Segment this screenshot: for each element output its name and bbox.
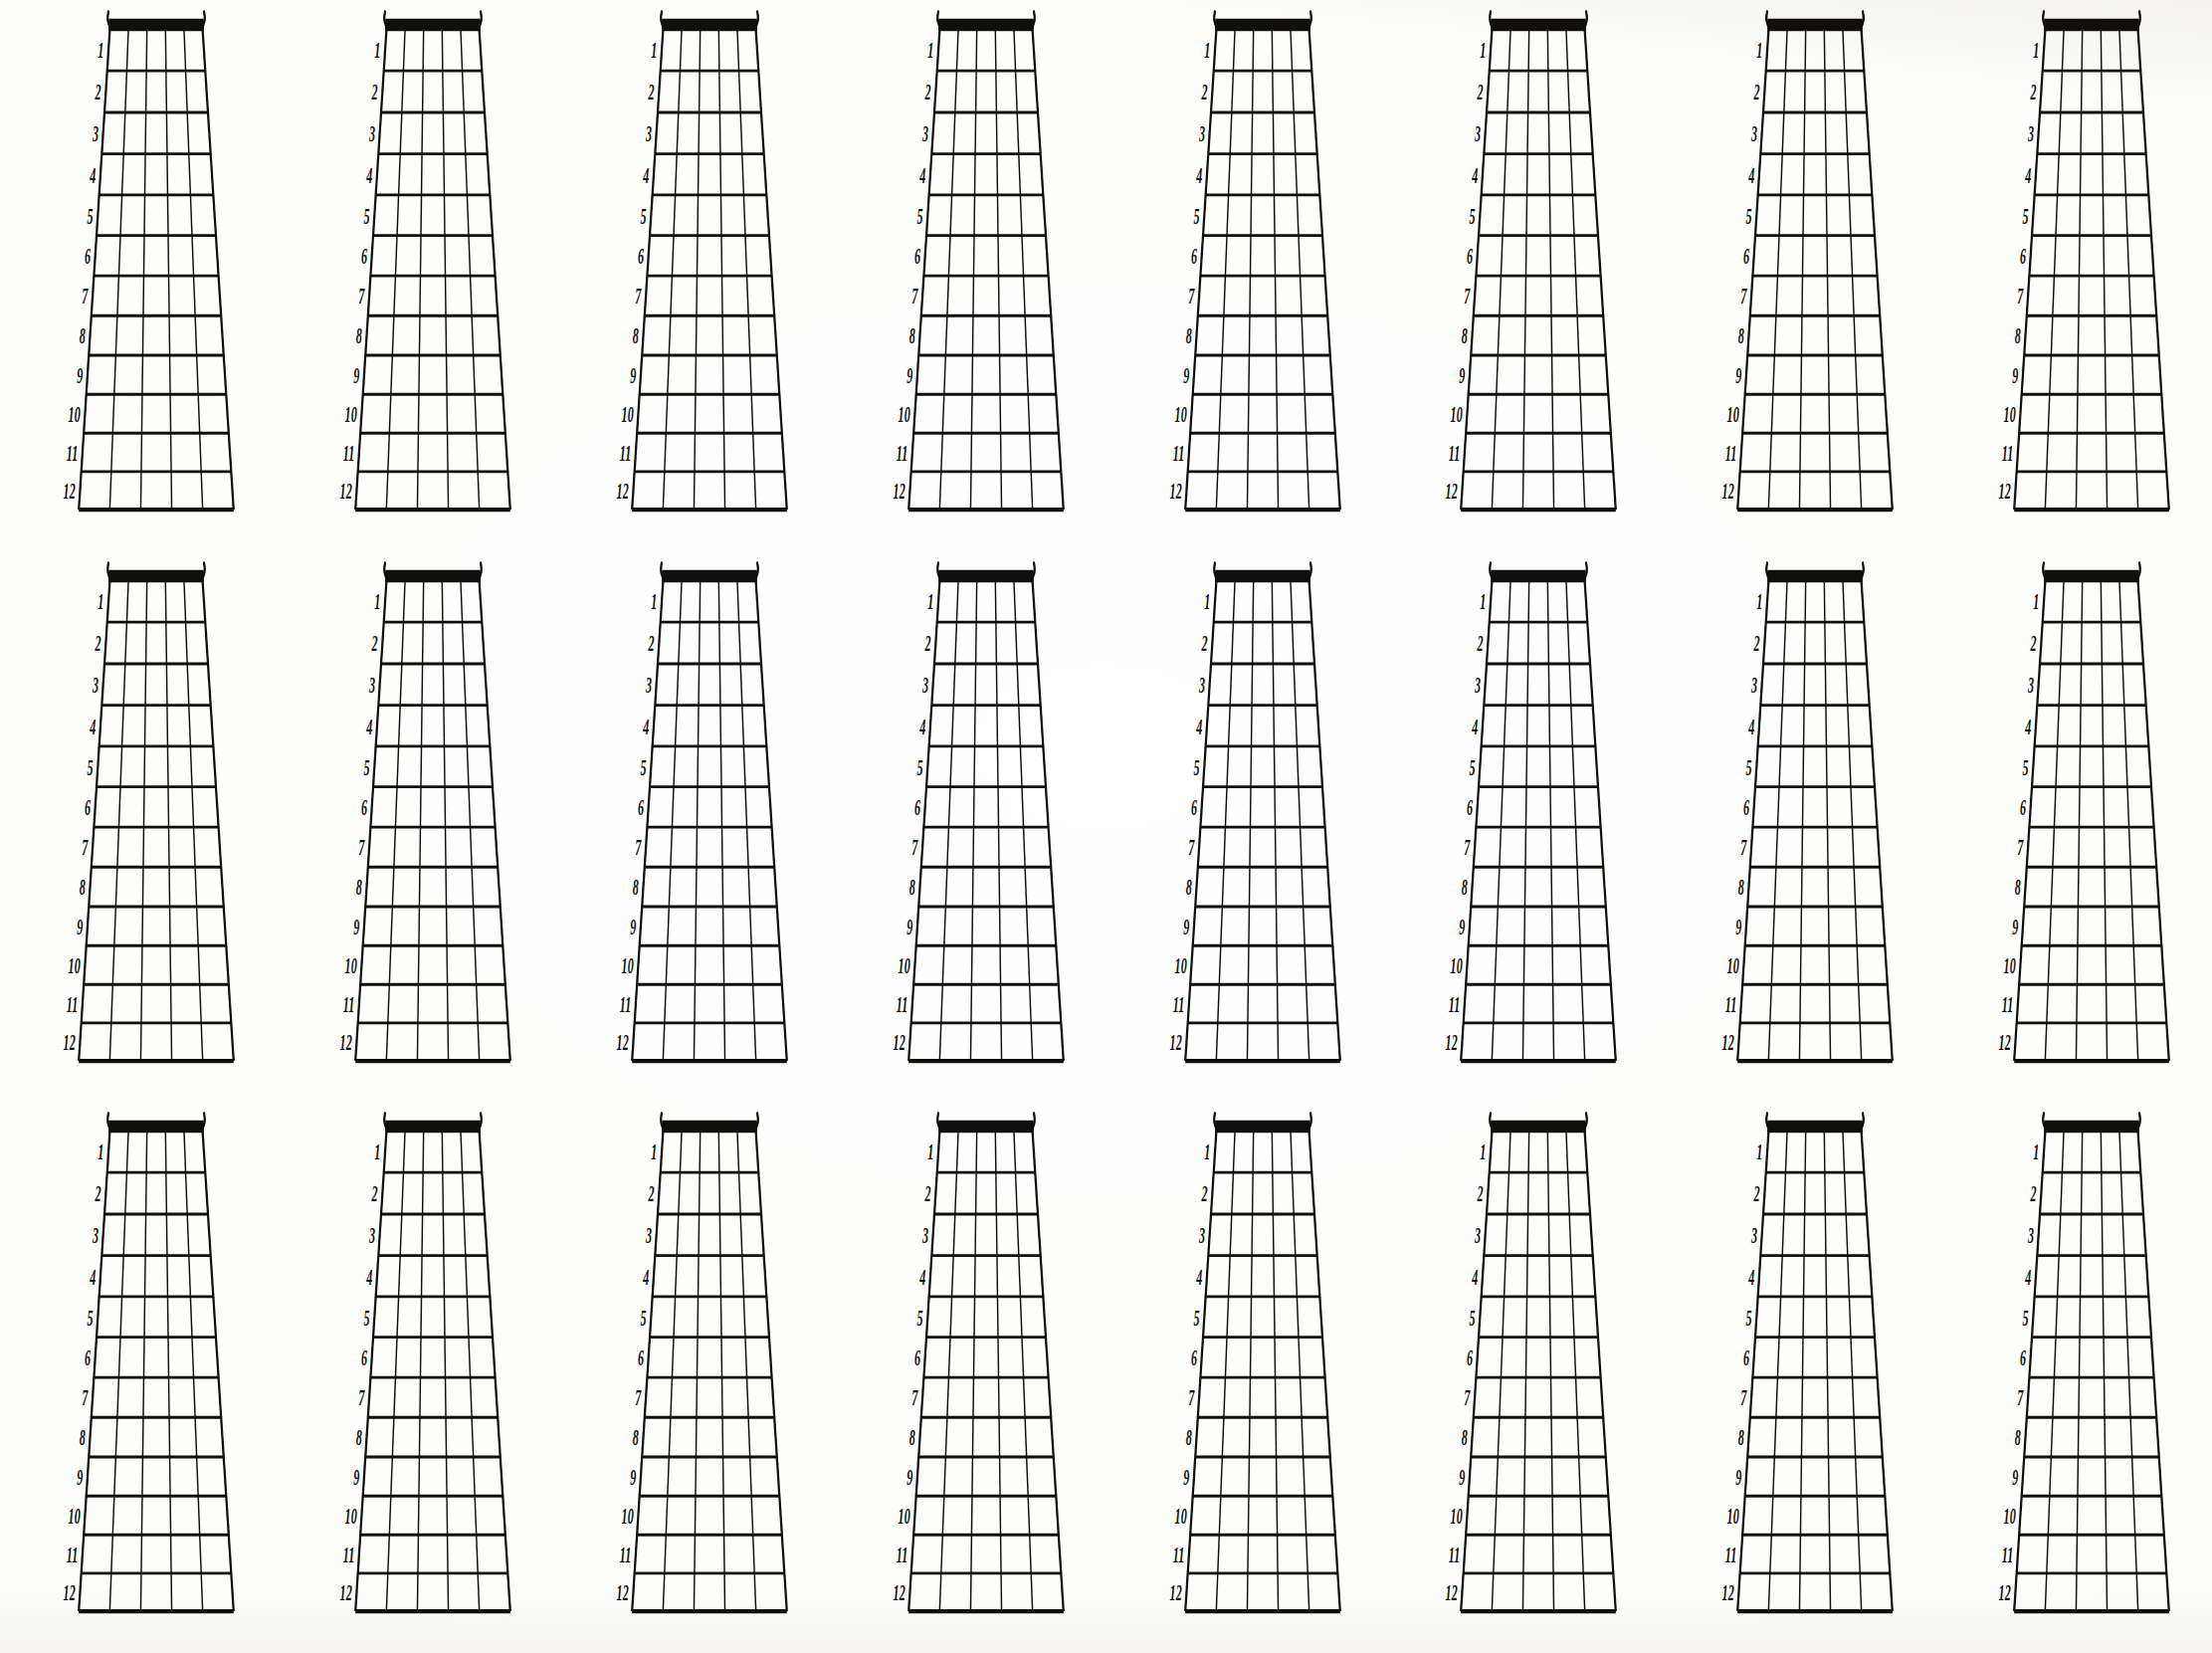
fret-number: 10 — [1451, 401, 1463, 428]
fret-number: 8 — [1185, 1424, 1191, 1451]
string-line — [2045, 579, 2064, 1060]
fretboard-diagram[interactable]: 123456789101112 — [830, 1102, 1106, 1653]
fret-number: 2 — [924, 1180, 931, 1207]
fretboard-diagram[interactable]: 123456789101112 — [553, 1102, 830, 1653]
fretboard-diagram[interactable]: 123456789101112 — [1659, 0, 1935, 551]
fretboard-diagram[interactable]: 123456789101112 — [1106, 0, 1383, 551]
fret-number: 10 — [2004, 401, 2016, 428]
fretboard-diagram[interactable]: 123456789101112 — [1382, 551, 1659, 1103]
fret-number: 12 — [1169, 1579, 1181, 1606]
string-line — [165, 29, 171, 510]
fret-number: 2 — [2030, 630, 2037, 657]
string-line — [2119, 1131, 2138, 1611]
fret-number: 9 — [630, 913, 636, 939]
fretboard-diagram[interactable]: 123456789101112 — [1106, 1102, 1383, 1653]
fret-number: 11 — [1449, 439, 1460, 466]
fret-number: 10 — [344, 951, 356, 978]
fret-number: 11 — [896, 1542, 906, 1568]
string-line — [663, 579, 682, 1060]
fret-number: 4 — [1195, 161, 1202, 188]
string-line — [184, 1131, 203, 1611]
string-line — [1493, 1131, 1511, 1611]
fretboard-diagram[interactable]: 123456789101112 — [0, 551, 277, 1103]
fret-number: 12 — [1722, 478, 1734, 505]
fretboard-diagram[interactable]: 123456789101112 — [277, 1102, 553, 1653]
fret-number: 12 — [893, 1579, 905, 1606]
fret-number: 8 — [1738, 874, 1744, 901]
string-line — [1216, 1131, 1235, 1611]
fretboard-diagram[interactable]: 123456789101112 — [277, 551, 553, 1103]
string-line — [718, 579, 724, 1060]
fret-number: 10 — [1451, 1503, 1463, 1530]
string-line — [109, 29, 128, 510]
fret-number: 1 — [98, 37, 103, 64]
fret-number: 4 — [2025, 161, 2032, 188]
fret-number: 6 — [1190, 793, 1196, 820]
fret-number: 1 — [1204, 37, 1210, 64]
neck-group — [1185, 1115, 1340, 1612]
string-line — [970, 579, 976, 1060]
string-line — [1566, 29, 1585, 510]
fret-number: 1 — [1757, 1138, 1763, 1165]
fret-number: 1 — [98, 1138, 103, 1165]
neck-edge — [1862, 579, 1893, 1060]
fret-number: 10 — [2004, 1503, 2016, 1530]
fret-number: 12 — [616, 1579, 628, 1606]
fret-number: 4 — [1748, 161, 1755, 188]
fret-number: 6 — [361, 243, 367, 270]
fret-number: 2 — [1753, 1180, 1760, 1207]
fretboard-diagram[interactable]: 123456789101112 — [1659, 551, 1935, 1103]
fret-number: 9 — [353, 913, 359, 939]
fret-number: 3 — [1198, 120, 1205, 147]
fretboard-diagram[interactable]: 123456789101112 — [1935, 0, 2212, 551]
fret-number: 1 — [651, 1138, 657, 1165]
diagram-row: 1234567891011121234567891011121234567891… — [0, 1102, 2212, 1653]
fret-number: 8 — [1462, 322, 1468, 349]
fretboard-diagram[interactable]: 123456789101112 — [830, 0, 1106, 551]
fret-number: 5 — [1193, 202, 1199, 229]
string-line — [718, 29, 724, 510]
string-line — [442, 579, 448, 1060]
string-line — [386, 29, 405, 510]
neck-group — [908, 563, 1064, 1061]
fretboard-diagram[interactable]: 123456789101112 — [1935, 1102, 2212, 1653]
fret-number: 4 — [1472, 1263, 1479, 1290]
fret-number: 2 — [648, 630, 655, 657]
fret-number: 12 — [893, 1029, 905, 1056]
fret-number: 3 — [921, 120, 928, 147]
fret-number: 6 — [2020, 1344, 2026, 1371]
fretboard-diagram[interactable]: 123456789101112 — [0, 1102, 277, 1653]
fret-number: 3 — [1751, 1222, 1758, 1249]
string-line — [2119, 29, 2138, 510]
fretboard-diagram[interactable]: 123456789101112 — [1382, 1102, 1659, 1653]
fret-number: 8 — [2015, 1424, 2021, 1451]
fret-number: 5 — [640, 202, 646, 229]
fretboard-diagram[interactable]: 123456789101112 — [1659, 1102, 1935, 1653]
string-line — [109, 579, 128, 1060]
fretboard-diagram[interactable]: 123456789101112 — [1935, 551, 2212, 1103]
neck-edge — [1585, 579, 1616, 1060]
neck-group — [1185, 12, 1340, 510]
fret-number: 7 — [1465, 283, 1472, 310]
fret-number: 11 — [343, 990, 354, 1017]
string-line — [1247, 579, 1253, 1060]
fretboard-diagram[interactable]: 123456789101112 — [553, 551, 830, 1103]
fretboard-diagram[interactable]: 123456789101112 — [830, 551, 1106, 1103]
fret-number: 7 — [1741, 283, 1748, 310]
fretboard-diagram[interactable]: 123456789101112 — [277, 0, 553, 551]
fretboard-diagram[interactable]: 123456789101112 — [1106, 551, 1383, 1103]
fretboard-diagram[interactable]: 123456789101112 — [0, 0, 277, 551]
neck-edge — [479, 579, 509, 1060]
fret-number: 4 — [1195, 1263, 1202, 1290]
fret-number: 1 — [374, 587, 380, 614]
fret-number: 1 — [2033, 587, 2039, 614]
fretboard-diagram[interactable]: 123456789101112 — [553, 0, 830, 551]
fret-number: 6 — [914, 243, 920, 270]
neck-group — [355, 12, 510, 510]
string-line — [417, 29, 423, 510]
fret-number: 11 — [67, 990, 78, 1017]
fret-number: 11 — [620, 990, 631, 1017]
fretboard-diagram[interactable]: 123456789101112 — [1382, 0, 1659, 551]
fret-number: 7 — [635, 1384, 642, 1411]
fret-number: 6 — [1743, 793, 1749, 820]
